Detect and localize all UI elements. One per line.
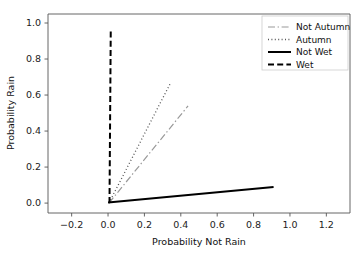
x-axis-tick-labels: −0.20.00.20.40.60.81.01.2 <box>60 219 334 230</box>
y-axis-tick-labels: 0.00.20.40.60.81.0 <box>26 17 41 208</box>
x-tick-label: 1.0 <box>282 219 297 230</box>
line-chart: −0.20.00.20.40.60.81.01.2 0.00.20.40.60.… <box>0 0 364 254</box>
chart-legend: Not AutumnAutumnNot WetWet <box>262 16 350 70</box>
x-axis-ticks <box>72 213 327 217</box>
legend-label-wet: Wet <box>296 60 314 70</box>
y-axis-label: Probability Rain <box>5 76 16 150</box>
x-tick-label: 0.2 <box>137 219 152 230</box>
legend-label-not-autumn: Not Autumn <box>296 22 350 32</box>
x-tick-label: 0.0 <box>100 219 115 230</box>
x-tick-label: 0.8 <box>246 219 261 230</box>
legend-label-autumn: Autumn <box>296 35 332 45</box>
y-tick-label: 0.4 <box>26 125 41 136</box>
x-tick-label: 0.4 <box>173 219 188 230</box>
y-tick-label: 0.0 <box>26 197 41 208</box>
y-axis-ticks <box>45 23 49 203</box>
legend-label-not-wet: Not Wet <box>296 47 333 57</box>
y-tick-label: 0.8 <box>26 53 41 64</box>
chart-figure: −0.20.00.20.40.60.81.01.2 0.00.20.40.60.… <box>0 0 364 254</box>
y-tick-label: 0.6 <box>26 89 41 100</box>
x-tick-label: −0.2 <box>60 219 83 230</box>
x-axis-label: Probability Not Rain <box>152 236 246 247</box>
x-tick-label: 0.6 <box>210 219 225 230</box>
y-tick-label: 1.0 <box>26 17 41 28</box>
y-tick-label: 0.2 <box>26 161 41 172</box>
x-tick-label: 1.2 <box>319 219 334 230</box>
